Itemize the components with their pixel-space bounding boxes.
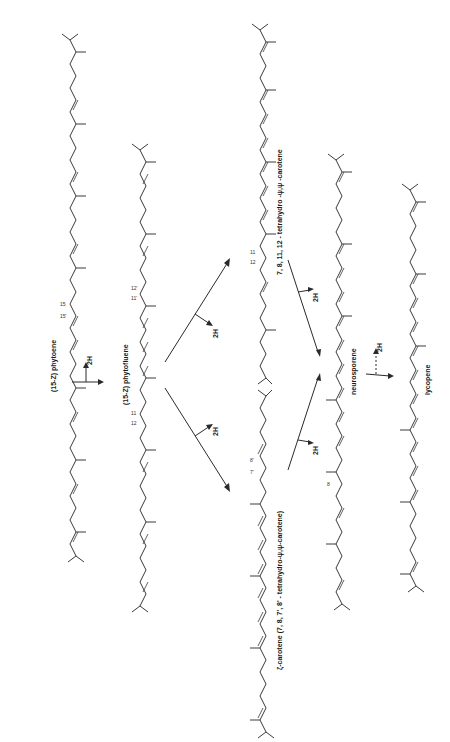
lycopene-label: lycopene: [424, 365, 432, 395]
byproduct-2h-label: 2H: [86, 356, 93, 365]
arrow-phytofluene-to-tetrahydro: [165, 258, 230, 362]
tetrahydro-7-8-11-12-label: 7, 8, 11, 12 - tetrahydro -ψ,ψ -carotene: [276, 149, 284, 275]
byproduct-2h-label: 2H: [312, 446, 319, 455]
phytofluene-structure: 12' 11' 11 12: [131, 144, 156, 612]
marker-12-prime: 12': [131, 285, 138, 291]
lycopene-structure: [400, 184, 426, 592]
marker-15: 15: [60, 301, 66, 307]
marker-11-prime: 11': [131, 295, 137, 301]
zeta-carotene-structure-head: [258, 390, 272, 420]
marker-12: 12: [131, 420, 137, 426]
byproduct-2h-label: 2H: [212, 427, 219, 436]
phytoene-label: (15-Z) phytoene: [50, 340, 58, 392]
arrow-tetrahydro-to-neurosporene: [288, 260, 321, 357]
neurosporene-label: neurosporene: [350, 348, 358, 395]
neurosporene-structure: 8: [326, 154, 352, 610]
carotenoid-pathway-diagram: 15 15' (15-Z) phytoene 2H 12' 11' 11 12: [0, 0, 450, 742]
phytoene-structure: 15 15': [60, 34, 86, 562]
byproduct-2h-label: 2H: [312, 293, 319, 302]
marker-15-prime: 15': [60, 313, 67, 319]
phytofluene-label: (15-Z) phytofluene: [122, 344, 130, 405]
marker-8: 8: [327, 481, 330, 487]
marker-12: 12: [250, 259, 256, 265]
tetrahydro-7-8-11-12-structure: 11 12: [250, 24, 276, 306]
marker-8-prime: 8': [250, 457, 254, 463]
marker-11: 11: [250, 249, 255, 255]
tetrahydro-7-8-11-12-structure-tail: [258, 306, 276, 384]
marker-11: 11: [131, 410, 136, 416]
zeta-carotene-label: ζ-carotene (7, 8, 7', 8' - tetrahydro-ψ,…: [276, 511, 284, 670]
arrow-phytofluene-to-zeta-carotene: [165, 388, 230, 492]
zeta-carotene-structure: 8' 7': [250, 420, 274, 738]
byproduct-2h-label: 2H: [212, 329, 219, 338]
marker-7-prime: 7': [250, 469, 254, 475]
byproduct-2h-label: 2H: [376, 343, 383, 352]
